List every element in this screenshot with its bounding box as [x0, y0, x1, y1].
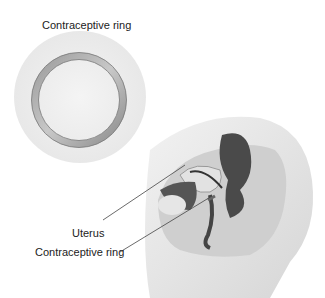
ring-label: Contraceptive ring: [35, 246, 124, 258]
uterus-label: Uterus: [72, 227, 104, 239]
diagram-title: Contraceptive ring: [42, 19, 131, 31]
